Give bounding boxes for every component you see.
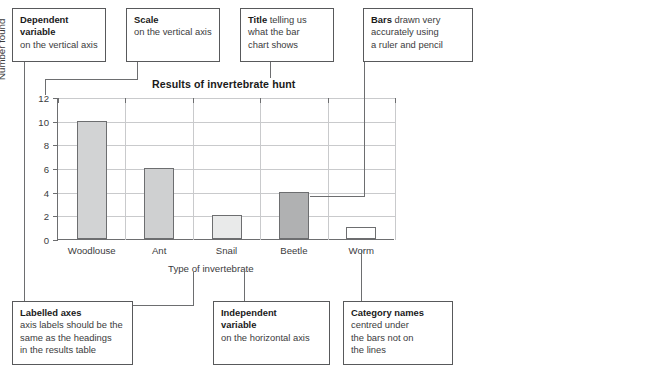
y-axis-tick-label: 12 xyxy=(38,93,49,104)
x-gridline xyxy=(260,98,261,240)
callout-bars-body-1: drawn very xyxy=(392,14,440,25)
y-axis-tick-label: 2 xyxy=(44,211,49,222)
y-axis-title: Number found xyxy=(0,19,7,80)
callout-title-heading: Title xyxy=(248,14,267,25)
x-axis-tick xyxy=(260,98,261,103)
callout-title-body-2: what the bar xyxy=(248,26,326,38)
x-axis-category-label: Snail xyxy=(216,245,237,256)
connector-xaxis-title-vertical xyxy=(193,272,194,306)
callout-labelled-axes-body-3: in the results table xyxy=(20,344,125,356)
connector-category-names xyxy=(361,250,362,302)
y-axis-tick-label: 0 xyxy=(44,235,49,246)
y-gridline xyxy=(58,145,395,146)
x-axis-title: Type of invertebrate xyxy=(168,263,254,274)
callout-category-names: Category names centred under the bars no… xyxy=(343,301,453,365)
connector-scale-drop xyxy=(45,79,46,95)
y-axis-tick xyxy=(53,122,58,123)
callout-bars-body-2: accurately using xyxy=(371,26,465,38)
y-axis-tick xyxy=(53,240,58,241)
y-gridline xyxy=(58,98,395,99)
connector-title xyxy=(270,62,271,78)
y-axis-tick xyxy=(53,216,58,217)
connector-bars-vertical xyxy=(364,62,365,197)
x-axis-tick xyxy=(58,98,59,103)
callout-dependent-variable: Dependent variable on the vertical axis xyxy=(12,8,106,62)
bar-snail xyxy=(212,215,242,239)
x-gridline xyxy=(328,98,329,240)
callout-independent-variable-heading2: variable xyxy=(221,319,256,330)
callout-title: Title telling us what the bar chart show… xyxy=(240,8,334,62)
callout-scale: Scale on the vertical axis xyxy=(126,8,220,62)
x-gridline xyxy=(395,98,396,240)
callout-scale-body: on the vertical axis xyxy=(134,26,212,38)
connector-bars-horizontal xyxy=(310,196,365,197)
y-axis-tick-label: 10 xyxy=(38,116,49,127)
y-axis-tick xyxy=(53,169,58,170)
bar-worm xyxy=(346,227,376,239)
y-gridline xyxy=(58,193,395,194)
y-axis-tick-label: 6 xyxy=(44,164,49,175)
callout-category-names-body-3: the lines xyxy=(351,344,445,356)
callout-bars-body-3: a ruler and pencil xyxy=(371,39,465,51)
callout-labelled-axes-body-1: axis labels should be the xyxy=(20,319,125,331)
x-axis-tick xyxy=(395,98,396,103)
callout-independent-variable: Independent variable on the horizontal a… xyxy=(213,301,330,365)
x-gridline xyxy=(125,98,126,240)
callout-labelled-axes-body-2: same as the headings xyxy=(20,332,125,344)
x-axis-category-label: Beetle xyxy=(280,245,307,256)
x-axis-tick xyxy=(193,98,194,103)
x-axis-tick xyxy=(328,98,329,103)
callout-category-names-body-1: centred under xyxy=(351,319,445,331)
connector-scale-vertical xyxy=(137,62,138,80)
callout-independent-variable-body: on the horizontal axis xyxy=(221,332,322,344)
x-axis-tick xyxy=(125,98,126,103)
callout-labelled-axes-heading: Labelled axes xyxy=(20,307,82,318)
y-axis-tick xyxy=(53,193,58,194)
y-gridline xyxy=(58,122,395,123)
x-axis-category-label: Ant xyxy=(152,245,166,256)
connector-xaxis-title-horizontal xyxy=(133,305,194,306)
plot-area: 024681012WoodlouseAntSnailBeetleWorm xyxy=(57,98,394,240)
x-axis-category-label: Woodlouse xyxy=(68,245,116,256)
connector-scale-horizontal xyxy=(45,79,138,80)
callout-category-names-body-2: the bars not on xyxy=(351,332,445,344)
x-gridline xyxy=(193,98,194,240)
bar-ant xyxy=(144,168,174,239)
callout-title-body-3: chart shows xyxy=(248,39,326,51)
y-axis-tick-label: 4 xyxy=(44,187,49,198)
callout-category-names-heading: Category names xyxy=(351,307,424,318)
chart-title: Results of invertebrate hunt xyxy=(152,78,295,90)
callout-dependent-variable-heading2: variable xyxy=(20,26,55,37)
bar-woodlouse xyxy=(77,121,107,239)
callout-independent-variable-heading: Independent xyxy=(221,307,277,318)
bar-beetle xyxy=(279,192,309,239)
y-gridline xyxy=(58,169,395,170)
connector-dependent-variable xyxy=(24,62,25,302)
callout-bars-heading: Bars xyxy=(371,14,392,25)
y-axis-tick xyxy=(53,145,58,146)
callout-scale-heading: Scale xyxy=(134,14,159,25)
callout-title-body-1: telling us xyxy=(267,14,307,25)
callout-dependent-variable-body: on the vertical axis xyxy=(20,39,98,51)
callout-labelled-axes: Labelled axes axis labels should be the … xyxy=(12,301,133,365)
y-axis-tick-label: 8 xyxy=(44,140,49,151)
callout-bars: Bars drawn very accurately using a ruler… xyxy=(363,8,473,62)
callout-dependent-variable-heading: Dependent xyxy=(20,14,68,25)
